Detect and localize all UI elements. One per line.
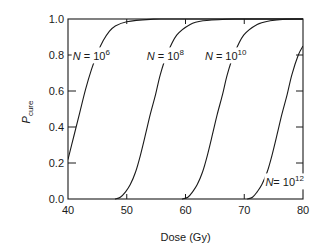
- chart: 4050607080 0.00.20.40.60.81.0 N = 106N =…: [0, 0, 322, 252]
- y-tick-label: 0.8: [49, 49, 64, 61]
- x-tick-label: 80: [297, 204, 309, 216]
- y-tick-label: 0.6: [49, 85, 64, 97]
- curve-labels: N = 106N = 108N = 1010N= 1012: [72, 47, 306, 189]
- x-axis-label: Dose (Gy): [160, 231, 210, 243]
- curves-group: [68, 19, 303, 199]
- x-tick-label: 60: [179, 204, 191, 216]
- plot-frame: [68, 19, 303, 199]
- y-tick-label: 1.0: [49, 13, 64, 25]
- curve-label-n-1e8: N = 108: [147, 48, 185, 62]
- svg-text:Pcure: Pcure: [20, 100, 35, 123]
- y-tick-label: 0.2: [49, 157, 64, 169]
- y-tick-label: 0.4: [49, 121, 64, 133]
- curve-n-1e6: [68, 19, 303, 159]
- x-tick-label: 70: [238, 204, 250, 216]
- y-tick-label: 0.0: [49, 193, 64, 205]
- curve-n-1e8: [115, 19, 303, 199]
- x-tick-label: 40: [62, 204, 74, 216]
- curve-n-1e10: [182, 19, 303, 199]
- curve-label-n-1e6: N = 106: [73, 48, 111, 62]
- y-axis-label-sub: cure: [26, 100, 35, 116]
- y-axis-label: Pcure: [20, 100, 35, 123]
- x-tick-label: 50: [121, 204, 133, 216]
